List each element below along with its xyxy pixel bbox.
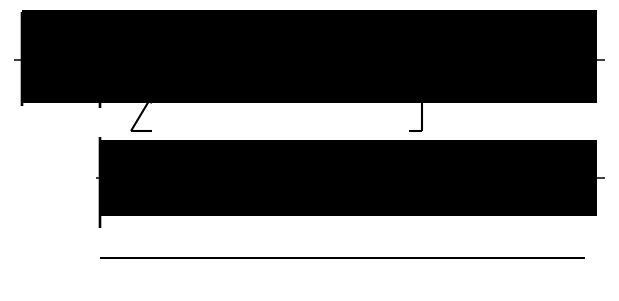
- figure-canvas: [0, 0, 619, 301]
- top-panel-band: [22, 10, 597, 103]
- wave-phase-figure: [0, 0, 619, 301]
